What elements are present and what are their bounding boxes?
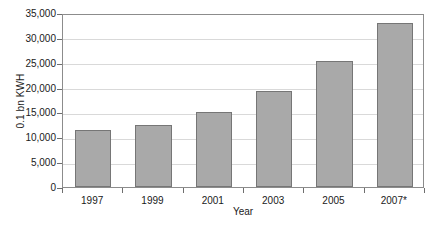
- y-axis-tick-label: 35,000: [4, 9, 56, 19]
- x-axis-tick-mark: [183, 188, 184, 193]
- gridline: [63, 139, 423, 140]
- x-axis-tick-mark: [303, 188, 304, 193]
- bar-chart-figure: 0.1 bn KWH 05,00010,00015,00020,00025,00…: [0, 0, 436, 230]
- gridline: [63, 114, 423, 115]
- x-axis-tick-mark: [122, 188, 123, 193]
- bar: [316, 61, 352, 187]
- bar: [256, 91, 292, 187]
- gridline: [63, 64, 423, 65]
- bar: [75, 130, 111, 187]
- x-axis-tick-label: 1999: [122, 195, 182, 206]
- x-axis-tick-label: 2001: [183, 195, 243, 206]
- y-axis-tick-label: 25,000: [4, 59, 56, 69]
- x-axis-tick-mark: [243, 188, 244, 193]
- x-axis-tick-label: 1997: [62, 195, 122, 206]
- x-axis-tick-mark: [62, 188, 63, 193]
- y-axis-tick-group: 05,00010,00015,00020,00025,00030,00035,0…: [0, 0, 62, 230]
- x-axis-tick-label: 2003: [243, 195, 303, 206]
- x-axis-tick-mark: [364, 188, 365, 193]
- gridline: [63, 89, 423, 90]
- plot-area: [62, 14, 424, 188]
- bar: [135, 125, 171, 187]
- y-axis-tick-label: 0: [4, 183, 56, 193]
- bar: [377, 23, 413, 187]
- x-axis-tick-label: 2005: [303, 195, 363, 206]
- x-axis-title: Year: [62, 206, 424, 218]
- y-axis-tick-label: 30,000: [4, 34, 56, 44]
- y-axis-tick-label: 5,000: [4, 158, 56, 168]
- clipped-caption: [62, 224, 424, 230]
- y-axis-tick-label: 15,000: [4, 108, 56, 118]
- y-axis-tick-label: 10,000: [4, 133, 56, 143]
- gridline: [63, 39, 423, 40]
- y-axis-tick-label: 20,000: [4, 84, 56, 94]
- x-axis-tick-mark: [424, 188, 425, 193]
- bar: [196, 112, 232, 187]
- x-axis-tick-label: 2007*: [364, 195, 424, 206]
- gridline: [63, 164, 423, 165]
